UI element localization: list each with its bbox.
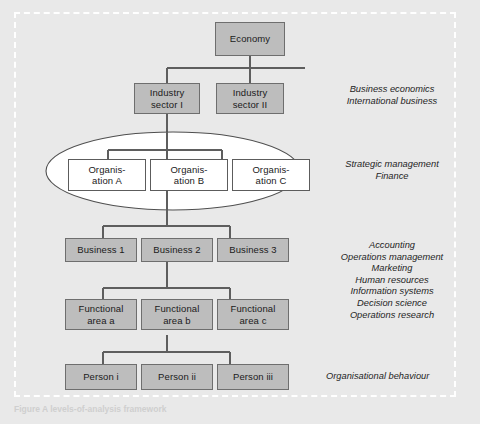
node-person-ii[interactable]: Person ii [141, 364, 213, 390]
node-organisation-b[interactable]: Organis- ation B [150, 159, 228, 191]
figure-root: Economy Industry sector I Industry secto… [0, 0, 480, 424]
annotation-industry-level: Business economics International busines… [326, 84, 458, 107]
figure-caption: Figure A levels-of-analysis framework [14, 404, 464, 414]
annotation-organisation-level: Strategic management Finance [326, 159, 458, 182]
node-business-3-label: Business 3 [229, 244, 276, 256]
node-economy[interactable]: Economy [215, 22, 285, 56]
node-industry-sector-1[interactable]: Industry sector I [134, 83, 200, 114]
node-business-3[interactable]: Business 3 [217, 238, 289, 262]
node-functional-area-a-label: Functional area a [79, 303, 124, 326]
node-organisation-b-label: Organis- ation B [170, 164, 207, 187]
node-functional-area-c-label: Functional area c [231, 303, 276, 326]
node-organisation-a[interactable]: Organis- ation A [68, 159, 146, 191]
node-functional-area-c[interactable]: Functional area c [217, 299, 289, 330]
node-person-iii[interactable]: Person iii [217, 364, 289, 390]
node-industry-sector-1-label: Industry sector I [150, 87, 185, 110]
node-business-1-label: Business 1 [77, 244, 124, 256]
annotation-business-function-level: Accounting Operations management Marketi… [326, 240, 458, 321]
node-business-1[interactable]: Business 1 [65, 238, 137, 262]
node-functional-area-b-label: Functional area b [155, 303, 200, 326]
node-person-i[interactable]: Person i [65, 364, 137, 390]
connector-layer [0, 0, 480, 424]
node-industry-sector-2-label: Industry sector II [233, 87, 268, 110]
node-organisation-c-label: Organis- ation C [252, 164, 289, 187]
node-economy-label: Economy [230, 33, 270, 45]
node-person-iii-label: Person iii [233, 371, 273, 383]
node-business-2[interactable]: Business 2 [141, 238, 213, 262]
node-business-2-label: Business 2 [153, 244, 200, 256]
annotation-person-level: Organisational behaviour [326, 371, 458, 383]
node-functional-area-b[interactable]: Functional area b [141, 299, 213, 330]
node-person-i-label: Person i [83, 371, 119, 383]
node-industry-sector-2[interactable]: Industry sector II [216, 83, 284, 114]
node-person-ii-label: Person ii [158, 371, 196, 383]
node-organisation-a-label: Organis- ation A [88, 164, 125, 187]
node-organisation-c[interactable]: Organis- ation C [232, 159, 310, 191]
node-functional-area-a[interactable]: Functional area a [65, 299, 137, 330]
